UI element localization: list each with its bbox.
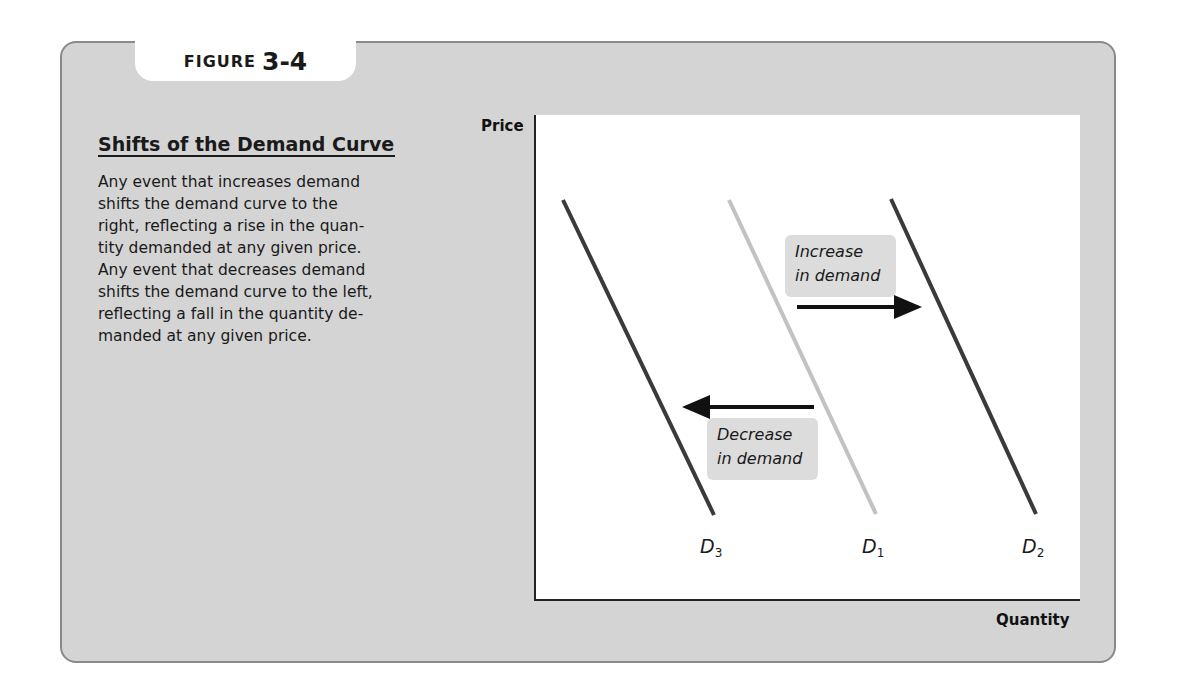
annotation-line: in demand [717,447,808,471]
caption-line: Any event that increases demand [98,171,398,193]
curve-label-d3: D3 [700,535,722,560]
annotation-line: Increase [795,240,886,264]
increase-annotation: Increase in demand [785,235,896,297]
caption-line: right, reflecting a rise in the quan- [98,215,398,237]
figure-label-word: FIGURE [184,52,256,71]
caption-line: Any event that decreases demand [98,259,398,281]
curve-label-d1: D1 [862,535,884,560]
caption-line: shifts the demand curve to the [98,193,398,215]
decrease-annotation: Decrease in demand [707,418,818,480]
figure-tab: FIGURE 3-4 [135,41,356,81]
curve-label-d2: D2 [1022,535,1044,560]
x-axis-label: Quantity [996,611,1070,629]
caption-line: tity demanded at any given price. [98,237,398,259]
caption-line: reflecting a fall in the quantity de- [98,303,398,325]
plot-area [534,115,1080,601]
y-axis-label: Price [481,117,524,135]
caption-line: manded at any given price. [98,325,398,347]
caption-title: Shifts of the Demand Curve [98,133,398,155]
annotation-line: Decrease [717,423,808,447]
figure-label-number: 3-4 [262,47,307,76]
title-divider [98,155,395,157]
caption-description: Any event that increases demand shifts t… [98,171,398,347]
caption-line: shifts the demand curve to the left, [98,281,398,303]
annotation-line: in demand [795,264,886,288]
